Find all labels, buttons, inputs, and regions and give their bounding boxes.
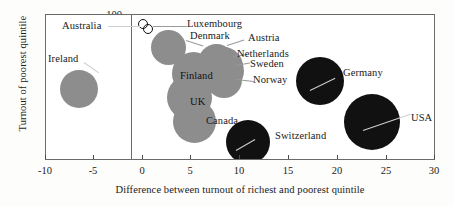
point-label-switzerland: Switzerland — [275, 130, 326, 141]
x-tick-mark-neg10 — [45, 155, 46, 159]
point-label-canada: Canada — [206, 115, 238, 126]
x-tick-mark-20 — [337, 155, 338, 159]
point-label-denmark: Denmark — [190, 30, 230, 41]
point-label-usa: USA — [411, 112, 432, 123]
x-tick-mark-0 — [142, 155, 143, 159]
point-label-austria: Austria — [248, 32, 280, 43]
x-tick-mark-30 — [434, 155, 435, 159]
x-tick-label-25: 25 — [366, 166, 406, 176]
x-tick-mark-neg5 — [93, 155, 94, 159]
point-label-germany: Germany — [343, 67, 383, 78]
point-label-sweden: Sweden — [250, 58, 284, 69]
x-tick-label-neg10: -10 — [25, 166, 65, 176]
y-axis-title: Turnout of poorest quintile — [17, 0, 28, 149]
bubble-ireland[interactable] — [60, 70, 98, 108]
bubble-usa[interactable] — [344, 94, 400, 150]
point-label-finland: Finland — [180, 70, 213, 81]
point-label-australia: Australia — [62, 20, 101, 31]
bubble-luxembourg[interactable] — [143, 24, 153, 34]
scatter-chart-figure: Turnout of poorest quintile 100 90 80 70… — [0, 0, 454, 206]
point-label-uk: UK — [190, 96, 205, 107]
point-label-luxembourg: Luxembourg — [187, 18, 242, 29]
leader-australia — [108, 26, 140, 27]
x-tick-label-30: 30 — [414, 166, 454, 176]
x-tick-mark-5 — [190, 155, 191, 159]
x-tick-label-0: 0 — [122, 166, 162, 176]
bubble-germany[interactable] — [296, 57, 344, 105]
x-tick-label-5: 5 — [170, 166, 210, 176]
x-tick-mark-25 — [386, 155, 387, 159]
x-tick-label-neg5: -5 — [73, 166, 113, 176]
point-label-ireland: Ireland — [48, 53, 78, 64]
x-tick-label-10: 10 — [219, 166, 259, 176]
x-axis-title: Difference between turnout of richest an… — [45, 184, 435, 195]
x-tick-mark-10 — [239, 155, 240, 159]
x-tick-label-15: 15 — [268, 166, 308, 176]
leader-luxembourg — [153, 26, 187, 27]
point-label-norway: Norway — [253, 74, 287, 85]
right-frame-line — [434, 14, 435, 160]
x-tick-mark-15 — [288, 155, 289, 159]
zero-axis-line — [131, 14, 132, 160]
x-axis-line — [45, 159, 435, 160]
x-tick-label-20: 20 — [317, 166, 357, 176]
